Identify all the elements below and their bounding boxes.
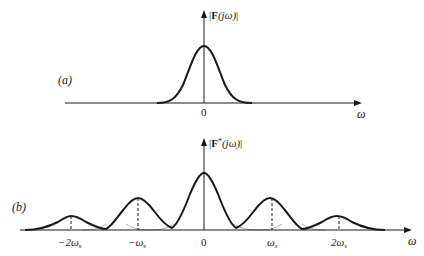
panel-b-tick-ws: ωs — [267, 236, 278, 250]
panel-b-spectrum-curve — [25, 173, 385, 230]
panel-a-tick-zero: 0 — [201, 106, 207, 118]
panel-a-label: (a) — [58, 73, 72, 87]
panel-b-y-arrow-icon — [201, 138, 207, 146]
panel-a-y-arrow-icon — [201, 10, 207, 18]
panel-a-y-axis-label: |F(jω)| — [209, 9, 238, 22]
panel-b-tick-minus-ws: −ωs — [128, 236, 146, 250]
panel-b-tick-minus-2ws: −2ωs — [58, 236, 82, 250]
panel-a: (a) 0 ω |F(jω)| — [58, 9, 365, 121]
panel-b-tick-zero: 0 — [201, 236, 207, 248]
panel-b-x-arrow-icon — [404, 227, 412, 233]
sampling-spectrum-diagram: (a) 0 ω |F(jω)| (b) −2ωs −ωs 0 — [0, 0, 424, 256]
panel-b-label: (b) — [12, 200, 26, 214]
panel-a-x-arrow-icon — [354, 100, 362, 106]
panel-b-x-axis-label: ω — [408, 234, 416, 248]
panel-b: (b) −2ωs −ωs 0 ωs 2ωs ω |F*(jω)| — [12, 137, 416, 250]
panel-b-y-axis-label: |F*(jω)| — [209, 137, 242, 150]
panel-b-tick-2ws: 2ωs — [331, 236, 347, 250]
panel-a-x-axis-label: ω — [357, 107, 365, 121]
